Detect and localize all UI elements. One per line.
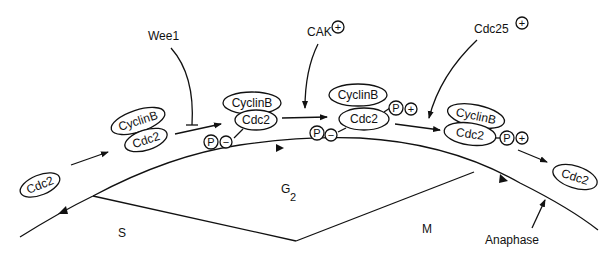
transition-arrow-1	[71, 152, 108, 165]
svg-text:P: P	[313, 127, 320, 139]
svg-text:CyclinB: CyclinB	[232, 96, 273, 110]
transition-arrow-5	[518, 150, 547, 162]
svg-text:P: P	[503, 132, 510, 144]
wee1-label: Wee1	[148, 29, 179, 43]
wee1-inhibition-line	[171, 48, 192, 125]
phosphate-inhibitory: P −	[310, 126, 337, 141]
state-free-cdc2-start: Cdc2	[17, 168, 63, 202]
cak-activation-arrow	[305, 44, 318, 108]
svg-text:−: −	[223, 136, 229, 148]
cell-cycle-diagram: S G 2 M Anaphase Cdc2 CyclinB Cdc2 Wee1 …	[0, 0, 614, 257]
transition-arrow-3	[282, 117, 327, 118]
state-complex-2: CyclinB Cdc2 P −	[204, 92, 281, 149]
svg-text:−: −	[328, 129, 334, 141]
anaphase-label: Anaphase	[485, 233, 539, 247]
track-arrowhead-1	[58, 206, 68, 214]
state-complex-4: CyclinB Cdc2 P +	[443, 99, 528, 148]
svg-text:+: +	[335, 21, 341, 33]
phosphate-activating: P +	[500, 131, 528, 145]
svg-text:P: P	[392, 102, 399, 114]
svg-text:P: P	[207, 136, 214, 148]
phase-g2-label: G 2	[281, 182, 296, 203]
cak-label: CAK +	[307, 21, 344, 39]
track-arrowhead-2	[276, 144, 284, 152]
g2-m-boundary	[296, 172, 474, 241]
phosphate-inhibitory: P −	[204, 135, 232, 149]
cdc25-label: Cdc25 +	[474, 17, 528, 36]
svg-text:+: +	[408, 103, 414, 115]
anaphase-arrow	[532, 200, 545, 228]
state-complex-3: CyclinB Cdc2 P + P −	[310, 84, 417, 141]
transition-arrow-4	[395, 124, 440, 130]
svg-text:Cdc25: Cdc25	[474, 22, 509, 36]
phosphate-activating: P +	[389, 101, 417, 115]
state-complex-1: CyclinB Cdc2	[108, 102, 170, 156]
svg-text:Cdc2: Cdc2	[242, 113, 270, 127]
svg-text:G: G	[281, 182, 290, 196]
svg-text:CAK: CAK	[307, 25, 332, 39]
svg-text:2: 2	[290, 191, 296, 203]
phase-m-label: M	[422, 222, 432, 236]
svg-text:CyclinB: CyclinB	[338, 88, 379, 102]
svg-text:Cdc2: Cdc2	[350, 112, 378, 126]
svg-text:+: +	[519, 17, 525, 29]
state-free-cdc2-end: Cdc2	[550, 159, 601, 194]
phase-s-label: S	[118, 226, 126, 240]
svg-text:+: +	[519, 132, 525, 144]
